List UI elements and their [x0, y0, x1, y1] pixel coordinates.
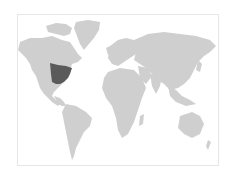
- madagascar: [139, 114, 144, 126]
- india: [150, 74, 162, 94]
- world-map: [0, 0, 233, 172]
- greenland: [74, 20, 100, 50]
- southeast-asia: [168, 86, 196, 106]
- new-zealand: [206, 140, 211, 150]
- north-america: [18, 36, 82, 106]
- europe: [108, 38, 138, 66]
- arctic-islands: [46, 23, 72, 36]
- south-america: [62, 104, 92, 160]
- africa: [102, 68, 146, 138]
- australia: [178, 112, 204, 138]
